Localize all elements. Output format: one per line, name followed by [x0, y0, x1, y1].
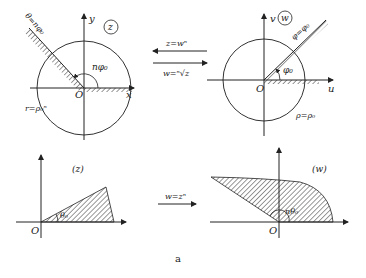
v-axis-label: v: [270, 13, 276, 24]
angle-label: nφ₀: [92, 62, 108, 72]
mapping-arrows-top: z=wⁿ w=ⁿ√z: [153, 39, 207, 78]
angle-label: φ₀: [283, 65, 293, 75]
origin-label: O: [256, 83, 264, 94]
plane-label: w: [281, 13, 289, 23]
plane-label: z: [107, 22, 113, 32]
circle-label: r=ρ₀ⁿ: [25, 104, 47, 113]
z-plane-top: z y x O nφ₀ θ=nφ₀ r=ρ₀ⁿ: [23, 11, 134, 140]
origin-label: O: [75, 89, 83, 100]
map-label: w=zⁿ: [165, 192, 186, 201]
figure-caption: a: [175, 253, 181, 264]
u-axis-label: u: [328, 83, 334, 94]
circle-label: ρ=ρ₀: [295, 111, 316, 120]
w-plane-top: w v u O φ₀ φ=φ₀ ρ=ρ₀: [207, 11, 334, 136]
w-plane-bottom: (w) O nθ₀: [210, 148, 348, 238]
plane-label: (z): [72, 164, 84, 174]
plane-label: (w): [312, 164, 327, 174]
angle-label: nθ₀: [285, 207, 299, 216]
angle-label: θ₀: [60, 211, 69, 220]
forward-map-label: z=wⁿ: [165, 39, 187, 48]
mapping-arrow-bottom: w=zⁿ: [158, 192, 196, 204]
conformal-mapping-diagram: z y x O nφ₀ θ=nφ₀ r=ρ₀ⁿ z=wⁿ w=ⁿ√z w v u…: [0, 0, 366, 278]
origin-label: O: [31, 225, 39, 236]
origin-label: O: [269, 225, 277, 236]
z-plane-bottom: (z) O θ₀: [16, 155, 126, 238]
x-axis-label: x: [126, 89, 132, 100]
inverse-map-label: w=ⁿ√z: [163, 69, 190, 78]
y-axis-label: y: [88, 13, 95, 24]
